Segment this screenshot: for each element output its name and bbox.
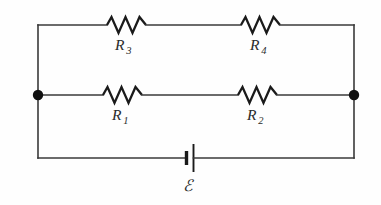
node-dot-left <box>33 90 43 100</box>
resistor-label-R3-letter: R <box>115 36 125 53</box>
resistor-label-R1: R1 <box>112 106 127 124</box>
resistor-R1-zigzag <box>103 87 142 103</box>
resistor-label-R1-subscript: 1 <box>123 115 128 126</box>
resistor-label-R2-letter: R <box>247 106 257 123</box>
resistor-label-R1-letter: R <box>112 106 122 123</box>
resistor-label-R4-letter: R <box>250 36 260 53</box>
resistor-label-R4: R4 <box>250 36 265 54</box>
emf-source-label: ℰ <box>183 176 193 195</box>
resistor-label-R2-subscript: 2 <box>258 115 263 126</box>
top-branch-group <box>38 17 354 33</box>
middle-branch-group <box>38 87 354 103</box>
circuit-diagram-figure: R3 R4 R1 R2 ℰ <box>0 0 381 205</box>
resistor-label-R2: R2 <box>247 106 262 124</box>
resistor-R3-zigzag <box>107 17 146 33</box>
resistor-R2-zigzag <box>238 87 277 103</box>
resistor-R4-zigzag <box>241 17 280 33</box>
resistor-label-R3: R3 <box>115 36 130 54</box>
circuit-schematic-svg <box>0 0 381 205</box>
resistor-label-R4-subscript: 4 <box>261 45 266 56</box>
node-dot-right <box>349 90 359 100</box>
bottom-branch-group <box>38 144 354 172</box>
resistor-label-R3-subscript: 3 <box>126 45 131 56</box>
